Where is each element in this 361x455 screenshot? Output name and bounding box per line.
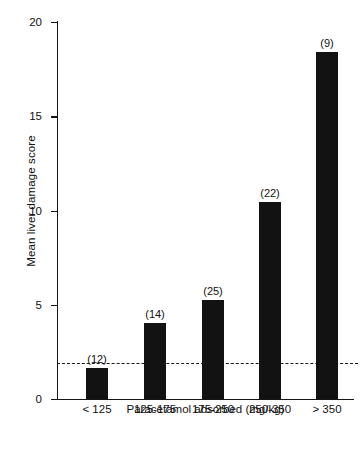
y-tick-15: 15	[51, 116, 57, 117]
bar-count-label: (22)	[260, 187, 280, 199]
y-tick-20: 20	[51, 22, 57, 23]
y-tick-label-15: 15	[29, 110, 42, 122]
bar-175-250: (25)	[202, 300, 224, 399]
bar-lt-125: (12)	[86, 368, 108, 399]
bar-count-label: (14)	[145, 308, 165, 320]
y-tick-10: 10	[51, 211, 57, 212]
bar-125-175: (14)	[144, 323, 166, 399]
y-tick-label-5: 5	[36, 299, 42, 311]
y-tick-label-20: 20	[29, 16, 42, 28]
bar-count-label: (25)	[203, 285, 223, 297]
bar-count-label: (9)	[320, 37, 333, 49]
y-tick-label-10: 10	[29, 205, 42, 217]
x-axis-title: Paracetamol absorbed (mg/kg)	[57, 403, 354, 415]
plot-area: 0 5 10 15 20 (12) (14) (25) (22) (9)	[57, 22, 354, 399]
bar-250-350: (22)	[259, 202, 281, 399]
x-axis-line	[57, 399, 354, 400]
y-tick-0: 0	[51, 399, 57, 400]
bar-gt-350: (9)	[316, 52, 338, 399]
y-tick-5: 5	[51, 305, 57, 306]
chart-figure: Mean liver damage score 0 5 10 15 20 (12…	[0, 0, 361, 455]
bar-count-label: (12)	[87, 353, 107, 365]
y-axis-line	[57, 21, 58, 400]
y-tick-label-0: 0	[36, 393, 42, 405]
